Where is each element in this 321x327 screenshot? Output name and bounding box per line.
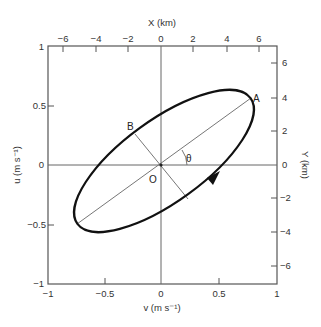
tick-label: −1 (43, 288, 54, 299)
right-tick-labels: 6 4 2 0 −2 −4 −6 (280, 57, 291, 271)
tick-label: −4 (280, 226, 291, 237)
tick-label: 1 (274, 288, 279, 299)
hodograph-figure: −1 −0.5 0 0.5 1 −1 −0.5 0 0.5 1 −6 −4 −2… (0, 0, 321, 327)
origin-point (159, 163, 162, 166)
tick-label: −2 (123, 33, 134, 44)
tick-label: −4 (91, 33, 102, 44)
left-axis-title: u (m s⁻¹) (11, 146, 22, 184)
tick-label: 6 (282, 57, 287, 68)
tick-label: 4 (224, 33, 229, 44)
top-tick-labels: −6 −4 −2 0 2 4 6 (58, 33, 262, 44)
left-tick-labels: −1 −0.5 0 0.5 1 (27, 41, 46, 289)
tick-label: −6 (280, 260, 291, 271)
tick-label: 4 (282, 92, 287, 103)
tick-label: −2 (280, 192, 291, 203)
tick-label: 0.5 (212, 288, 225, 299)
tick-label: 0 (39, 159, 44, 170)
tick-label: 0 (158, 33, 163, 44)
point-label-a: A (253, 93, 260, 104)
tick-label: 0 (282, 159, 287, 170)
tick-label: 0.5 (33, 100, 46, 111)
tick-label: −0.5 (96, 288, 115, 299)
tick-label: 2 (190, 33, 195, 44)
theta-label: θ (186, 153, 192, 164)
tick-label: −6 (58, 33, 69, 44)
tick-label: 6 (256, 33, 261, 44)
tick-label: 2 (282, 125, 287, 136)
point-label-b: B (127, 121, 134, 132)
bottom-axis-title: v (m s⁻¹) (143, 302, 180, 313)
tick-label: 0 (158, 288, 163, 299)
tick-label: −0.5 (27, 219, 46, 230)
bottom-axis-ticks (105, 278, 219, 284)
tick-label: −1 (33, 278, 44, 289)
point-label-o: O (149, 174, 157, 185)
tick-label: 1 (39, 41, 44, 52)
bottom-tick-labels: −1 −0.5 0 0.5 1 (43, 288, 280, 299)
top-axis-title: X (km) (148, 17, 176, 28)
right-axis-title: Y (km) (300, 151, 311, 179)
